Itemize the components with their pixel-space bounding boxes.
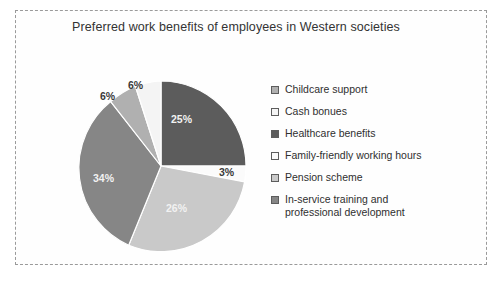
legend-swatch-in-service-training bbox=[271, 196, 279, 204]
chart-legend: Childcare support Cash bonues Healthcare… bbox=[271, 83, 476, 228]
legend-label-cash-bonues: Cash bonues bbox=[285, 105, 347, 118]
pie-label-family-friendly-working-hours: 3% bbox=[219, 166, 234, 178]
pie-label-pension-scheme: 34% bbox=[93, 172, 114, 184]
pie-chart-svg bbox=[71, 66, 251, 251]
legend-label-family-friendly-working-hours: Family-friendly working hours bbox=[285, 149, 422, 162]
legend-label-pension-scheme: Pension scheme bbox=[285, 171, 363, 184]
pie-label-in-service-training: 26% bbox=[166, 202, 187, 214]
legend-item-family-friendly-working-hours[interactable]: Family-friendly working hours bbox=[271, 149, 476, 162]
slide-canvas: Preferred work benefits of employees in … bbox=[15, 10, 487, 265]
legend-item-in-service-training[interactable]: In-service training and professional dev… bbox=[271, 193, 476, 219]
legend-item-healthcare-benefits[interactable]: Healthcare benefits bbox=[271, 127, 476, 140]
pie-label-childcare-support: 6% bbox=[100, 90, 115, 102]
pie-label-cash-bonues: 6% bbox=[128, 79, 143, 91]
legend-label-childcare-support: Childcare support bbox=[285, 83, 367, 96]
legend-swatch-family-friendly-working-hours bbox=[271, 152, 279, 160]
page-title: Preferred work benefits of employees in … bbox=[66, 19, 406, 36]
legend-label-healthcare-benefits: Healthcare benefits bbox=[285, 127, 375, 140]
pie-label-healthcare-benefits: 25% bbox=[171, 113, 192, 125]
legend-item-childcare-support[interactable]: Childcare support bbox=[271, 83, 476, 96]
legend-swatch-cash-bonues bbox=[271, 108, 279, 116]
legend-swatch-pension-scheme bbox=[271, 174, 279, 182]
legend-item-cash-bonues[interactable]: Cash bonues bbox=[271, 105, 476, 118]
legend-swatch-childcare-support bbox=[271, 86, 279, 94]
pie-chart: 25% 3% 26% 34% 6% 6% bbox=[71, 66, 251, 251]
legend-swatch-healthcare-benefits bbox=[271, 130, 279, 138]
legend-item-pension-scheme[interactable]: Pension scheme bbox=[271, 171, 476, 184]
legend-label-in-service-training: In-service training and professional dev… bbox=[285, 193, 445, 219]
